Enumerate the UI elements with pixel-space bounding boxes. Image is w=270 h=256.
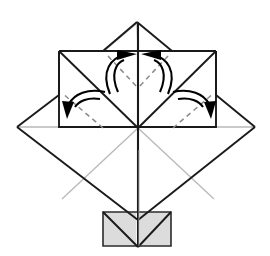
center-vertical-crease-group: [138, 23, 139, 246]
origami-svg-canvas: [0, 0, 270, 256]
origami-diagram: [0, 0, 270, 256]
